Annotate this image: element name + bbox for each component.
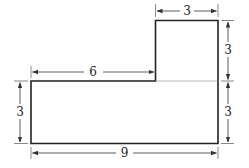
- dimension-tower-height: 3: [221, 21, 234, 82]
- dimension-tower-width: 3: [156, 4, 219, 18]
- label-tower-height: 3: [224, 43, 232, 57]
- l-shape-outline: [31, 21, 218, 144]
- label-base-right-height: 3: [224, 105, 232, 119]
- dimension-base-left-height: 3: [14, 81, 28, 144]
- label-base-width: 9: [121, 146, 129, 160]
- dimension-base-right-height: 3: [221, 83, 234, 144]
- dimension-base-top-left-length: 6: [31, 65, 154, 79]
- l-shape-diagram: 3 3 3 3 6 9: [0, 0, 249, 168]
- label-base-left-height: 3: [16, 105, 24, 119]
- dimension-base-width: 9: [31, 146, 218, 160]
- label-base-top-left-length: 6: [89, 65, 97, 79]
- label-tower-width: 3: [183, 4, 191, 18]
